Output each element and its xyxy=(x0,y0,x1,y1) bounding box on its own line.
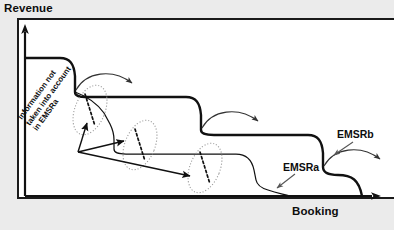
x-axis-label: Booking xyxy=(292,205,339,217)
annotation-arrow-2 xyxy=(78,141,124,152)
transition-arc-1 xyxy=(76,74,132,90)
curve-label-emsra: EMSRa xyxy=(283,161,319,173)
highlight-ellipse-1 xyxy=(66,80,113,139)
transition-arc-2 xyxy=(202,112,258,128)
emsra-leader-arrow xyxy=(277,174,295,188)
diagram-canvas xyxy=(0,0,394,230)
annotation-arrow-3 xyxy=(78,152,190,176)
transition-arc-3 xyxy=(324,150,380,166)
curve-emsra xyxy=(75,92,290,196)
y-axis-label: Revenue xyxy=(4,2,53,14)
curve-label-emsrb: EMSRb xyxy=(337,128,374,140)
emsrb-leader-arrow xyxy=(334,142,353,155)
figure-root: Revenue Booking EMSRb EMSRa Information … xyxy=(0,0,394,230)
highlight-ellipse-3 xyxy=(181,138,228,197)
axis-x xyxy=(25,192,381,200)
annotation-arrow-1 xyxy=(78,123,87,152)
